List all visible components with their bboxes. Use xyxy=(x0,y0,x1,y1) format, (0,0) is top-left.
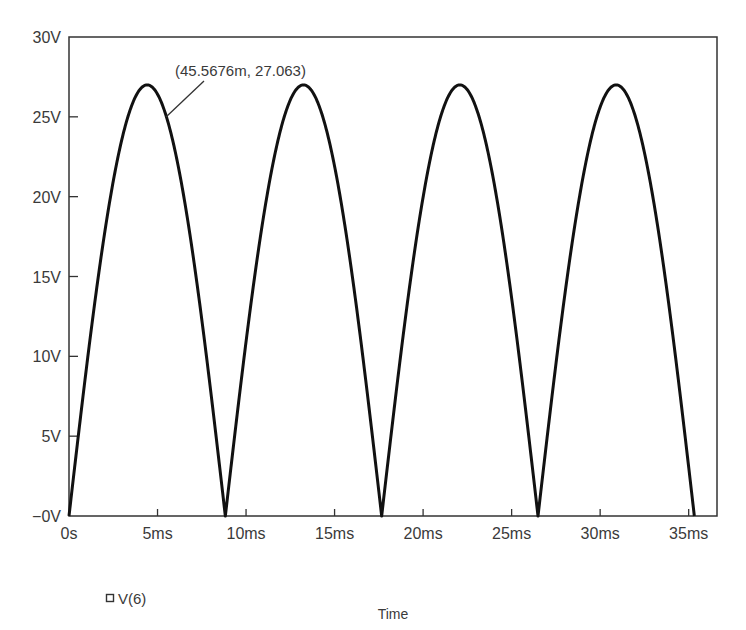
y-tick-label: 10V xyxy=(33,348,62,365)
legend: V(6) xyxy=(107,590,147,607)
x-tick-label: 10ms xyxy=(226,525,265,542)
y-axis: −0V5V10V15V20V25V30V xyxy=(32,29,78,525)
plot-frame xyxy=(69,37,717,516)
annotation-leader-line xyxy=(166,81,204,117)
chart: −0V5V10V15V20V25V30V 0s5ms10ms15ms20ms25… xyxy=(0,0,746,630)
y-tick-label: −0V xyxy=(32,508,61,525)
x-axis-title: Time xyxy=(378,606,409,622)
y-tick-label: 15V xyxy=(33,269,62,286)
annotation-label: (45.5676m, 27.063) xyxy=(175,62,306,79)
x-tick-label: 20ms xyxy=(404,525,443,542)
y-tick-label: 5V xyxy=(41,428,61,445)
x-axis: 0s5ms10ms15ms20ms25ms30ms35ms xyxy=(61,509,709,542)
legend-label-v6: V(6) xyxy=(118,590,146,607)
y-tick-label: 20V xyxy=(33,189,62,206)
x-tick-label: 35ms xyxy=(669,525,708,542)
x-tick-label: 25ms xyxy=(492,525,531,542)
x-tick-label: 5ms xyxy=(142,525,172,542)
legend-square-marker-icon xyxy=(107,595,114,602)
series-v6-trace xyxy=(69,85,694,516)
x-tick-label: 0s xyxy=(61,525,78,542)
y-tick-label: 30V xyxy=(33,29,62,46)
x-tick-label: 15ms xyxy=(315,525,354,542)
y-tick-label: 25V xyxy=(33,109,62,126)
x-tick-label: 30ms xyxy=(581,525,620,542)
